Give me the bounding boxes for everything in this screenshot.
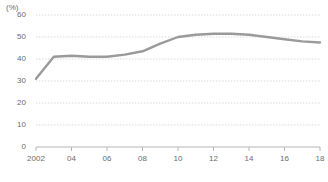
line-chart: (%) 0102030405060 20020406081012141618(年… — [0, 0, 328, 182]
plot-area — [0, 0, 328, 182]
x-axis-tick-marks — [36, 147, 320, 151]
data-series-line — [36, 34, 320, 79]
gridlines — [36, 15, 320, 125]
